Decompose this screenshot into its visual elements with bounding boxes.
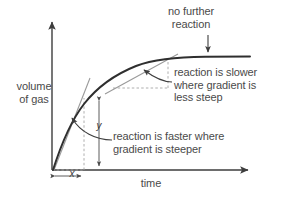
annotation-no-further-reaction: no further reaction — [126, 5, 256, 30]
x-axis-label: time — [122, 177, 180, 190]
faster-note-leader — [72, 118, 112, 140]
y-axis-label: volume of gas — [8, 80, 60, 105]
x-segment-label: x — [66, 168, 78, 179]
annotation-reaction-faster: reaction is faster where gradient is ste… — [113, 130, 283, 155]
y-segment-label: y — [94, 120, 104, 131]
reaction-rate-graph-figure: no further reaction reaction is slower w… — [0, 0, 286, 198]
annotation-reaction-slower: reaction is slower where gradient is les… — [174, 66, 286, 104]
